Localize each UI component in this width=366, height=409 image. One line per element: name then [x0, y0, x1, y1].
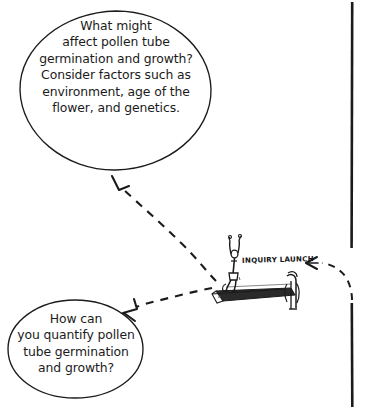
inquiry-launch-label: INQUIRY LAUNCH: [242, 254, 314, 265]
springboard-plank: [212, 284, 295, 303]
connector-to-top-bubble: [112, 176, 216, 281]
diver-figure: [218, 235, 242, 298]
connector-from-right-edge: [306, 257, 352, 300]
bubble-top-question-text: What might affect pollen tube germinatio…: [26, 18, 206, 116]
page-border-line: [352, 2, 353, 407]
bubble-bottom-question-text: How can you quantify pollen tube germina…: [12, 311, 140, 377]
inquiry-diagram-canvas: What might affect pollen tube germinatio…: [0, 0, 366, 409]
diver-on-springboard-sketch: [212, 235, 299, 310]
